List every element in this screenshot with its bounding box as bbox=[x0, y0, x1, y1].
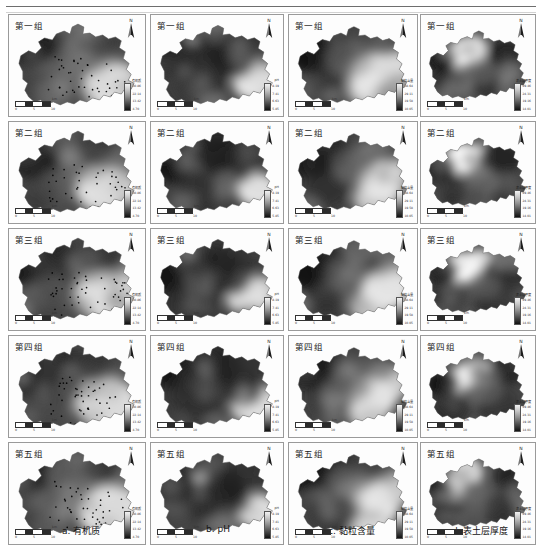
scale-tick: 10 bbox=[331, 321, 335, 325]
legend-tick-list: 30.8622.1413.424.70 bbox=[132, 192, 141, 218]
scale-unit: km bbox=[52, 97, 57, 101]
header-rule-thin bbox=[6, 12, 536, 13]
legend-tick-list: 8.197.416.635.85 bbox=[272, 192, 279, 218]
legend-title: pH bbox=[275, 399, 279, 403]
scale-bar-ticks: 0510 bbox=[427, 535, 467, 539]
legend-gradient-bar bbox=[124, 297, 131, 325]
scale-bar: km 0510 bbox=[15, 422, 55, 432]
legend-tick: 6.63 bbox=[272, 314, 279, 317]
scale-tick: 0 bbox=[157, 428, 159, 432]
map-legend: pH 8.197.416.635.85 bbox=[264, 511, 279, 539]
map-panel[interactable]: 第四组 N km 0510 表土层厚度 29.4624.3119.1614.01 bbox=[420, 335, 536, 438]
scale-bar: km 0510 bbox=[427, 101, 467, 111]
scale-bar-graphic bbox=[295, 422, 331, 428]
map-legend: 有机质 30.8622.1413.424.70 bbox=[124, 511, 141, 539]
scale-bar-graphic bbox=[427, 315, 463, 321]
scale-tick: 10 bbox=[463, 321, 467, 325]
legend-gradient-bar bbox=[124, 511, 131, 539]
legend-tick: 29.11 bbox=[404, 200, 413, 203]
legend-title: 有机质 bbox=[132, 78, 141, 83]
legend-tick: 19.16 bbox=[522, 207, 531, 210]
legend-gradient-bar bbox=[264, 83, 271, 111]
map-panel[interactable]: 第二组 N km 0510 表土层厚度 29.4624.3119.1614.01 bbox=[420, 121, 536, 224]
scale-bar-graphic bbox=[427, 529, 463, 535]
map-legend: 黏粒含量 38.6429.1119.5810.05 bbox=[396, 190, 413, 218]
map-legend: 表土层厚度 29.4624.3119.1614.01 bbox=[514, 83, 531, 111]
scale-tick: 5 bbox=[33, 428, 35, 432]
legend-tick: 24.31 bbox=[522, 414, 531, 417]
scale-unit: km bbox=[332, 97, 337, 101]
map-panel[interactable]: 第三组 N km 0510 黏粒含量 38.6429.1119.5810.05 bbox=[288, 228, 418, 331]
map-panel[interactable]: 第一组 N km 0510 表土层厚度 29.4624.3119.1614.01 bbox=[420, 14, 536, 117]
map-panel[interactable]: 第一组 N km 0510 黏粒含量 38.6429.1119.5810.05 bbox=[288, 14, 418, 117]
map-panel[interactable]: 第四组 N km 0510 有机质 30.8622.1413.424.70 bbox=[8, 335, 146, 438]
scale-tick: 0 bbox=[295, 107, 297, 111]
scale-tick: 0 bbox=[427, 535, 429, 539]
scale-bar: km 0510 bbox=[427, 208, 467, 218]
legend-tick: 22.14 bbox=[132, 521, 141, 524]
north-arrow-icon: N bbox=[397, 339, 409, 361]
scale-tick: 0 bbox=[15, 428, 17, 432]
legend-tick: 29.11 bbox=[404, 307, 413, 310]
scale-tick: 5 bbox=[445, 107, 447, 111]
legend-tick: 5.85 bbox=[272, 429, 279, 432]
north-arrow-icon: N bbox=[515, 339, 527, 361]
map-panel[interactable]: 第一组 N km 0510 有机质 30.8622.1413.424.70 bbox=[8, 14, 146, 117]
scale-tick: 10 bbox=[463, 214, 467, 218]
legend-tick-list: 30.8622.1413.424.70 bbox=[132, 513, 141, 539]
map-panel[interactable]: 第一组 N km 0510 pH 8.197.416.635.85 bbox=[150, 14, 284, 117]
scale-bar-ticks: 0510 bbox=[15, 214, 55, 218]
scale-bar-ticks: 0510 bbox=[295, 107, 335, 111]
legend-tick: 6.63 bbox=[272, 207, 279, 210]
legend-tick: 38.64 bbox=[404, 85, 413, 88]
scale-bar-graphic bbox=[15, 208, 51, 214]
legend-title: pH bbox=[275, 292, 279, 296]
legend-gradient-bar bbox=[514, 83, 521, 111]
legend-gradient-bar bbox=[396, 297, 403, 325]
scale-tick: 0 bbox=[427, 321, 429, 325]
legend-tick: 19.58 bbox=[404, 528, 413, 531]
map-panel[interactable]: 第三组 N km 0510 pH 8.197.416.635.85 bbox=[150, 228, 284, 331]
panel-group-label: 第三组 bbox=[427, 233, 455, 245]
north-arrow-icon: N bbox=[515, 125, 527, 147]
legend-title: 表土层厚度 bbox=[516, 78, 531, 83]
scale-tick: 5 bbox=[175, 428, 177, 432]
map-panel[interactable]: 第四组 N km 0510 黏粒含量 38.6429.1119.5810.05 bbox=[288, 335, 418, 438]
legend-tick: 24.31 bbox=[522, 200, 531, 203]
scale-tick: 0 bbox=[427, 428, 429, 432]
scale-unit: km bbox=[464, 97, 469, 101]
legend-title: 黏粒含量 bbox=[401, 292, 413, 297]
scale-unit: km bbox=[332, 311, 337, 315]
legend-tick: 6.63 bbox=[272, 100, 279, 103]
map-panel[interactable]: 第二组 N km 0510 pH 8.197.416.635.85 bbox=[150, 121, 284, 224]
legend-title: 黏粒含量 bbox=[401, 399, 413, 404]
scale-bar: km 0510 bbox=[295, 101, 335, 111]
legend-tick: 4.70 bbox=[132, 322, 141, 325]
scale-unit: km bbox=[332, 525, 337, 529]
map-panel[interactable]: 第三组 N km 0510 表土层厚度 29.4624.3119.1614.01 bbox=[420, 228, 536, 331]
scale-tick: 10 bbox=[193, 321, 197, 325]
scale-unit: km bbox=[464, 311, 469, 315]
map-panel[interactable]: 第三组 N km 0510 有机质 30.8622.1413.424.70 bbox=[8, 228, 146, 331]
north-arrow-icon: N bbox=[515, 232, 527, 254]
scale-bar: km 0510 bbox=[295, 315, 335, 325]
map-panel[interactable]: 第二组 N km 0510 黏粒含量 38.6429.1119.5810.05 bbox=[288, 121, 418, 224]
legend-title: 表土层厚度 bbox=[516, 399, 531, 404]
legend-gradient-bar bbox=[264, 404, 271, 432]
legend-gradient-bar bbox=[124, 190, 131, 218]
panel-group-label: 第一组 bbox=[15, 19, 43, 31]
map-panel[interactable]: 第二组 N km 0510 有机质 30.8622.1413.424.70 bbox=[8, 121, 146, 224]
map-panel[interactable]: 第四组 N km 0510 pH 8.197.416.635.85 bbox=[150, 335, 284, 438]
legend-tick: 30.86 bbox=[132, 406, 141, 409]
scale-tick: 0 bbox=[15, 214, 17, 218]
scale-tick: 5 bbox=[33, 107, 35, 111]
scale-tick: 0 bbox=[295, 321, 297, 325]
panel-group-label: 第二组 bbox=[427, 126, 455, 138]
legend-tick-list: 30.8622.1413.424.70 bbox=[132, 85, 141, 111]
scale-tick: 5 bbox=[175, 214, 177, 218]
map-legend: 有机质 30.8622.1413.424.70 bbox=[124, 190, 141, 218]
scale-tick: 10 bbox=[193, 107, 197, 111]
scale-bar: km 0510 bbox=[427, 315, 467, 325]
panel-group-label: 第四组 bbox=[157, 340, 185, 352]
legend-gradient-bar bbox=[396, 190, 403, 218]
